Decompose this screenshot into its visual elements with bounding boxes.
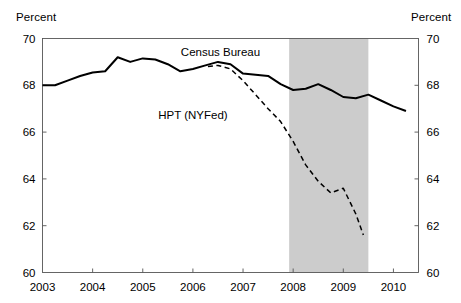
y-tick-label-right: 62: [427, 220, 440, 232]
recession-band: [289, 39, 368, 273]
recession-shading-group: [289, 39, 368, 273]
chart-container: Percent Percent 606062626464666668687070…: [0, 0, 461, 303]
y-tick-label-left: 60: [23, 267, 36, 279]
x-tick-label: 2004: [80, 281, 106, 293]
axis-tick-labels-group: 6060626264646666686870702003200420052006…: [23, 33, 440, 293]
x-tick-label: 2005: [130, 281, 156, 293]
x-tick-label: 2003: [30, 281, 56, 293]
x-tick-label: 2006: [180, 281, 206, 293]
y-tick-label-left: 64: [23, 173, 36, 185]
y-tick-label-left: 68: [23, 79, 36, 91]
x-tick-label: 2008: [280, 281, 306, 293]
y-tick-label-right: 60: [427, 267, 440, 279]
y-tick-label-left: 66: [23, 126, 36, 138]
series-annotation-census-bureau: Census Bureau: [181, 46, 260, 58]
y-tick-label-right: 70: [427, 33, 440, 45]
y-tick-label-left: 70: [23, 33, 36, 45]
chart-plot-svg: 6060626264646666686870702003200420052006…: [0, 0, 461, 303]
x-tick-label: 2010: [381, 281, 407, 293]
x-tick-label: 2009: [331, 281, 357, 293]
y-tick-label-right: 64: [427, 173, 440, 185]
y-tick-label-right: 68: [427, 79, 440, 91]
x-tick-label: 2007: [230, 281, 256, 293]
y-tick-label-left: 62: [23, 220, 36, 232]
series-annotation-hpt-nyfed: HPT (NYFed): [158, 109, 228, 121]
y-tick-label-right: 66: [427, 126, 440, 138]
